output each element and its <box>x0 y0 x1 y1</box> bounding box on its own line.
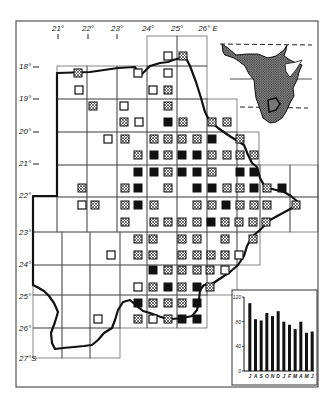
hatched-square-marker <box>150 135 158 143</box>
bar <box>311 332 314 371</box>
filled-square-marker <box>134 201 143 210</box>
filled-square-marker <box>208 184 217 193</box>
hatched-square-marker <box>149 251 157 259</box>
hatched-square-marker <box>78 184 86 192</box>
latitude-label: 24° <box>18 260 32 269</box>
hatched-square-marker <box>164 315 172 323</box>
grid-cell <box>177 197 207 232</box>
filled-square-marker <box>164 283 173 292</box>
hatched-square-marker <box>178 251 186 259</box>
open-square-marker <box>75 86 83 94</box>
hatched-square-marker <box>193 218 201 226</box>
hatched-square-marker <box>208 118 216 126</box>
hatched-square-marker <box>164 218 172 226</box>
hatched-square-marker <box>249 218 257 226</box>
filled-square-marker <box>208 135 217 144</box>
hatched-square-marker <box>134 235 142 243</box>
grid-cell <box>177 36 207 66</box>
longitude-label: 26° E <box>197 24 218 33</box>
hatched-square-marker <box>193 201 201 209</box>
hatched-square-marker <box>134 251 142 259</box>
hatched-square-marker <box>193 235 201 243</box>
open-square-marker <box>134 69 142 77</box>
hatched-square-marker <box>178 218 186 226</box>
longitude-label: 22° <box>81 24 95 33</box>
distribution-map-figure: 21°22°23°24°25°26° E 18°19°20°21°22°23°2… <box>0 0 334 399</box>
open-square-marker <box>135 118 143 126</box>
filled-square-marker <box>178 151 187 160</box>
latitude-label: 21° <box>18 159 32 168</box>
grid-cell <box>33 328 62 358</box>
hatched-square-marker <box>178 299 186 307</box>
hatched-square-marker <box>223 151 231 159</box>
bar <box>248 303 251 371</box>
grid-cell <box>33 232 62 265</box>
hatched-square-marker <box>91 201 99 209</box>
hatched-square-marker <box>263 184 271 192</box>
bar <box>265 313 268 371</box>
hatched-square-marker <box>235 218 243 226</box>
month-label: J <box>311 373 314 379</box>
hatched-square-marker <box>263 201 271 209</box>
hatched-square-marker <box>178 235 186 243</box>
filled-square-marker <box>134 168 143 177</box>
hatched-square-marker <box>206 283 214 291</box>
hatched-square-marker <box>120 118 128 126</box>
latitude-label: 25° <box>18 292 32 301</box>
grid-cell <box>62 232 90 265</box>
hatched-square-marker <box>149 299 157 307</box>
hatched-square-marker <box>208 151 216 159</box>
open-square-marker <box>235 251 243 259</box>
longitude-label: 24° <box>141 24 155 33</box>
hatched-square-marker <box>179 52 187 60</box>
filled-square-marker <box>222 201 231 210</box>
hatched-square-marker <box>206 266 214 274</box>
open-square-marker <box>164 69 172 77</box>
filled-square-marker <box>150 168 159 177</box>
month-label: A <box>298 373 303 379</box>
hatched-square-marker <box>164 151 172 159</box>
longitude-label: 25° <box>170 24 184 33</box>
hatched-square-marker <box>149 283 157 291</box>
hatched-square-marker <box>179 118 187 126</box>
hatched-square-marker <box>134 151 142 159</box>
hatched-square-marker <box>236 201 244 209</box>
open-square-marker <box>104 135 112 143</box>
hatched-square-marker <box>236 151 244 159</box>
hatched-square-marker <box>249 235 257 243</box>
month-label: J <box>282 373 285 379</box>
hatched-square-marker <box>121 201 129 209</box>
hatched-square-marker <box>223 118 231 126</box>
month-label: D <box>276 373 280 379</box>
filled-square-marker <box>193 151 202 160</box>
filled-square-marker <box>193 299 202 308</box>
grid-cell <box>57 99 87 132</box>
hatched-square-marker <box>74 69 82 77</box>
hatched-square-marker <box>292 201 300 209</box>
y-tick-label: 40 <box>235 343 241 349</box>
hatched-square-marker <box>250 201 258 209</box>
hatched-square-marker <box>193 251 201 259</box>
hatched-square-marker <box>208 168 216 176</box>
filled-square-marker <box>236 168 245 177</box>
y-tick-label: 80 <box>235 319 241 325</box>
grid-cell <box>147 36 177 66</box>
longitude-label: 21° <box>51 24 65 33</box>
open-square-marker <box>120 102 128 110</box>
grid-cell <box>62 328 90 358</box>
hatched-square-marker <box>89 102 97 110</box>
hatched-square-marker <box>134 315 142 323</box>
bar <box>294 329 297 371</box>
grid-cell <box>207 99 237 132</box>
latitude-label: 19° <box>19 94 32 103</box>
hatched-square-marker <box>149 235 157 243</box>
hatched-square-marker <box>193 135 201 143</box>
hatched-square-marker <box>236 184 244 192</box>
hatched-square-marker <box>262 218 270 226</box>
hatched-square-marker <box>164 299 172 307</box>
bar <box>277 311 280 371</box>
hatched-square-marker <box>121 218 129 226</box>
hatched-square-marker <box>164 102 172 110</box>
bar <box>288 325 291 371</box>
y-tick-label: 0 <box>238 368 241 374</box>
